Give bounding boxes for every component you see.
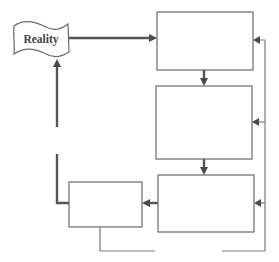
reality-node: Reality (14, 21, 69, 56)
arrow-left-icon (253, 36, 260, 44)
arrow-left-icon (252, 118, 259, 126)
arrow-left-icon (142, 199, 150, 207)
arrow-left-icon (254, 199, 261, 207)
arrow-down-icon (200, 167, 208, 175)
box-4 (69, 182, 142, 227)
diagram-canvas: Reality (0, 0, 279, 262)
arrow-right-icon (149, 34, 157, 42)
arrow-down-icon (200, 78, 208, 86)
edge-box3-to-box4 (142, 199, 158, 207)
arrow-up-icon (53, 59, 61, 67)
box-2 (156, 86, 252, 159)
edge-box4-to-reality (53, 59, 69, 203)
reality-label: Reality (23, 33, 58, 46)
edge-box1-to-box2 (200, 70, 208, 86)
box-3 (158, 175, 254, 232)
box-1 (157, 12, 253, 70)
edge-box2-to-box3 (200, 159, 208, 175)
edge-reality-to-box1 (69, 34, 157, 42)
